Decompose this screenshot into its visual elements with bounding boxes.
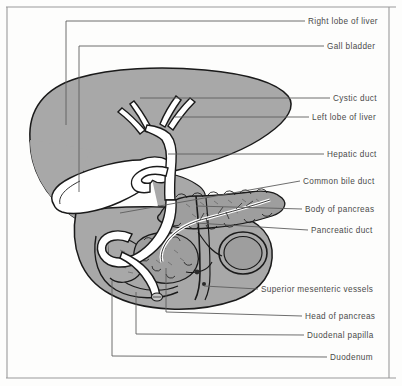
label-common-bile-duct: Common bile duct <box>303 178 375 186</box>
label-body-of-pancreas: Body of pancreas <box>305 206 374 214</box>
label-duodenum: Duodenum <box>330 354 373 362</box>
label-hepatic-duct: Hepatic duct <box>327 151 377 159</box>
label-head-of-pancreas: Head of pancreas <box>305 313 375 321</box>
anatomy-illustration <box>0 0 402 386</box>
anatomy-figure: Right lobe of liver Gall bladder Cystic … <box>0 0 402 386</box>
label-pancreatic-duct: Pancreatic duct <box>311 227 373 235</box>
label-cystic-duct: Cystic duct <box>333 95 377 103</box>
duodenal-papilla-shape <box>152 293 163 301</box>
label-gall-bladder: Gall bladder <box>327 43 375 51</box>
label-duodenal-papilla: Duodenal papilla <box>307 332 374 340</box>
label-superior-mesenteric-vessels: Superior mesenteric vessels <box>261 286 373 294</box>
label-right-lobe-of-liver: Right lobe of liver <box>308 18 378 26</box>
label-left-lobe-of-liver: Left lobe of liver <box>312 114 376 122</box>
